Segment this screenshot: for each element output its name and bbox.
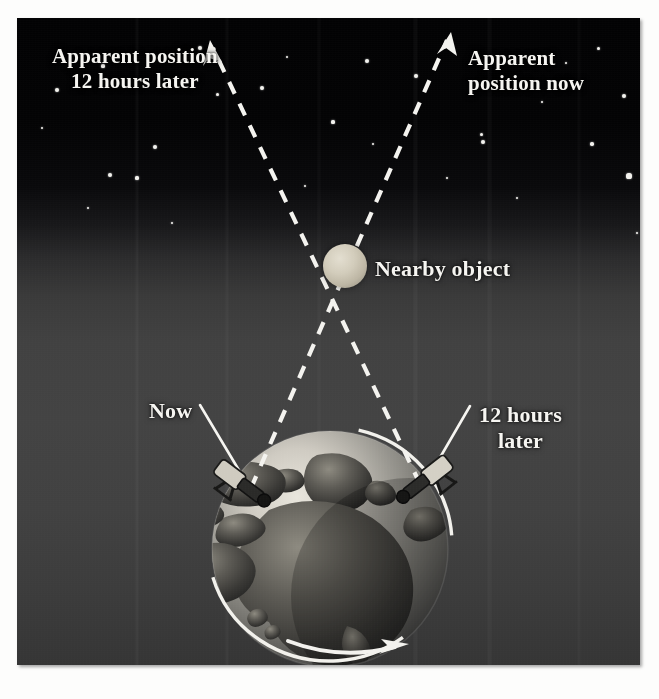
sight-lines-overlay [17, 18, 640, 665]
diagram-plate: Apparent position 12 hours later Apparen… [17, 18, 640, 665]
figure-root: Apparent position 12 hours later Apparen… [0, 0, 659, 699]
sphere-icon-nearby-object [323, 244, 367, 288]
label-apparent-position-12-hours-later: Apparent position 12 hours later [52, 44, 218, 94]
label-observer-12-hours-later: 12 hours later [479, 402, 562, 454]
label-observer-now: Now [149, 398, 192, 424]
label-apparent-position-now: Apparent position now [468, 46, 584, 96]
label-nearby-object: Nearby object [375, 256, 510, 282]
